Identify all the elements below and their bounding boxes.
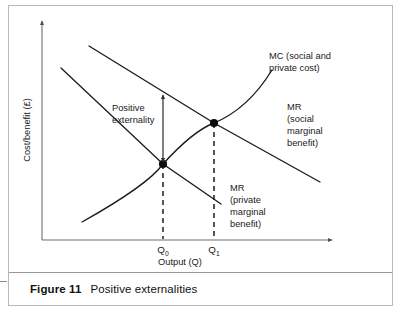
- margin-tick: [0, 281, 7, 282]
- curve-label-mr-social-line-3: marginal: [287, 126, 323, 136]
- curve-label-mr-private-line-4: benefit): [230, 219, 261, 229]
- annotation-positive-externality-line-2: externality: [112, 115, 155, 125]
- figure-caption: Figure 11 Positive externalities: [9, 273, 392, 305]
- curve-label-mc-line-2: private cost): [269, 63, 320, 73]
- curve-label-mr-social-line-2: (social: [287, 114, 314, 124]
- intersection-dot-q1: [210, 119, 218, 127]
- x-tick-label-q0-sub: 0: [165, 250, 169, 257]
- curve-mr-private: [61, 68, 221, 204]
- curve-label-mr-social-line-4: benefit): [287, 138, 318, 148]
- curve-label-mr-private-line-2: (private: [230, 195, 261, 205]
- curve-label-mc-line-1: MC (social and: [269, 51, 331, 61]
- x-tick-label-q0: Q0: [157, 244, 169, 257]
- economics-diagram: Cost/benefit (£) Output (Q) Positive ext…: [8, 5, 393, 272]
- annotation-positive-externality-line-1: Positive: [112, 103, 145, 113]
- figure-container: Cost/benefit (£) Output (Q) Positive ext…: [0, 0, 404, 315]
- curve-label-mr-social-line-1: MR: [287, 102, 302, 112]
- curve-label-mr-private-line-3: marginal: [230, 207, 266, 217]
- x-tick-label-q1-sub: 1: [216, 250, 220, 257]
- plot-area: Cost/benefit (£) Output (Q) Positive ext…: [8, 5, 393, 272]
- figure-caption-label: Figure 11: [30, 283, 81, 295]
- x-axis-title: Output (Q): [158, 257, 202, 267]
- x-tick-label-q1: Q1: [208, 244, 220, 257]
- curve-label-mr-private-line-1: MR: [230, 183, 245, 193]
- y-axis-title: Cost/benefit (£): [22, 98, 32, 162]
- figure-caption-text: Positive externalities: [90, 283, 197, 295]
